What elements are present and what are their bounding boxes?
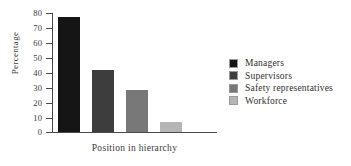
legend-swatch-managers bbox=[229, 59, 238, 68]
y-tick-label-60: 60 bbox=[22, 39, 42, 48]
y-tick-60: 60 bbox=[22, 39, 42, 48]
legend-swatch-workforce bbox=[229, 96, 238, 105]
bar-workforce bbox=[160, 122, 182, 132]
legend-item-managers: Managers bbox=[229, 57, 349, 70]
legend-label-workforce: Workforce bbox=[245, 96, 287, 106]
legend-label-managers: Managers bbox=[245, 58, 284, 68]
x-axis-title: Position in hierarchy bbox=[52, 143, 217, 153]
chart-figure: Percentage 80 70 60 50 40 30 20 10 0 bbox=[0, 0, 351, 166]
y-tick-label-30: 30 bbox=[22, 84, 42, 93]
y-tick-label-10: 10 bbox=[22, 114, 42, 123]
y-tick-70: 70 bbox=[22, 24, 42, 33]
chart-legend: Managers Supervisors Safety representati… bbox=[229, 57, 349, 107]
y-tick-label-20: 20 bbox=[22, 99, 42, 108]
legend-label-safety-representatives: Safety representatives bbox=[245, 83, 333, 93]
legend-label-supervisors: Supervisors bbox=[245, 71, 292, 81]
y-axis-title: Percentage bbox=[10, 5, 20, 101]
y-tick-30: 30 bbox=[22, 84, 42, 93]
y-tick-80: 80 bbox=[22, 9, 42, 18]
x-axis-line bbox=[52, 132, 217, 133]
bar-safety-representatives bbox=[126, 90, 148, 132]
legend-swatch-safety-representatives bbox=[229, 84, 238, 93]
y-tick-50: 50 bbox=[22, 54, 42, 63]
y-tick-0: 0 bbox=[22, 128, 42, 137]
y-tick-label-0: 0 bbox=[22, 128, 42, 137]
y-tick-10: 10 bbox=[22, 114, 42, 123]
y-tick-label-80: 80 bbox=[22, 9, 42, 18]
y-tick-label-50: 50 bbox=[22, 54, 42, 63]
y-tick-20: 20 bbox=[22, 99, 42, 108]
legend-item-supervisors: Supervisors bbox=[229, 70, 349, 83]
y-tick-label-70: 70 bbox=[22, 24, 42, 33]
bar-supervisors bbox=[92, 70, 114, 132]
legend-item-workforce: Workforce bbox=[229, 95, 349, 108]
legend-swatch-supervisors bbox=[229, 71, 238, 80]
legend-item-safety-representatives: Safety representatives bbox=[229, 82, 349, 95]
bar-managers bbox=[58, 17, 80, 132]
y-tick-label-40: 40 bbox=[22, 69, 42, 78]
y-tick-40: 40 bbox=[22, 69, 42, 78]
plot-area bbox=[52, 13, 214, 132]
